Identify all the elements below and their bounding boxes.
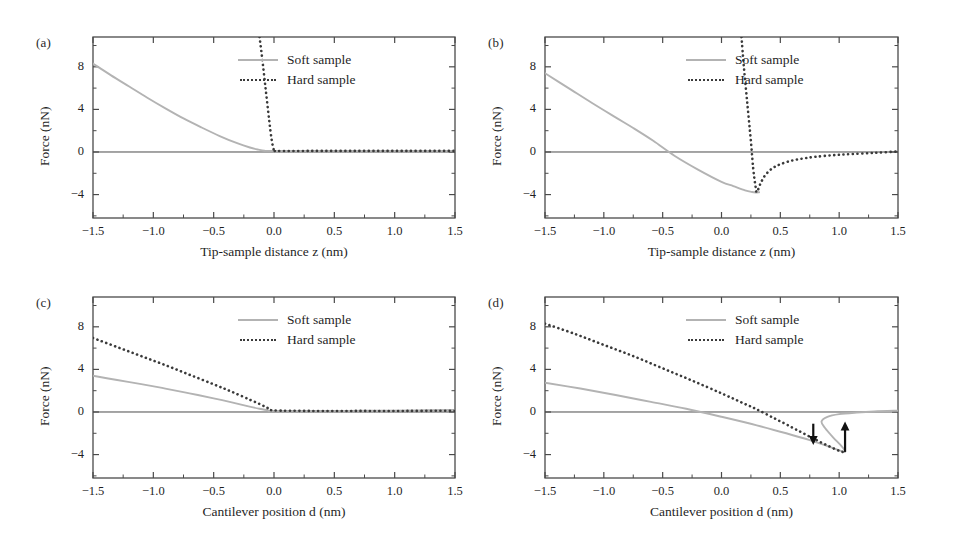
panel-a-xticklabel-3: 0.0 xyxy=(248,224,300,239)
panel-c-yticklabel-0: 8 xyxy=(51,319,84,334)
soft-sample-solid-line xyxy=(238,59,278,61)
panel-a-xticklabel-6: 1.5 xyxy=(429,224,481,239)
panel-d-legend-label-soft: Soft sample xyxy=(735,312,799,328)
panel-d-legend-row-hard: Hard sample xyxy=(686,331,804,348)
soft-sample-line-icon xyxy=(238,55,278,65)
panel-a-plot xyxy=(0,0,955,539)
panel-c-yticklabel-3: −4 xyxy=(51,447,84,462)
panel-c-xticklabel-3: 0.0 xyxy=(248,484,300,499)
panel-d-legend: Soft sampleHard sample xyxy=(686,311,804,351)
panel-b-xticklabel-3: 0.0 xyxy=(696,224,748,239)
panel-c-xticklabel-2: −0.5 xyxy=(188,484,240,499)
soft-sample-solid-line xyxy=(238,319,278,321)
panel-a-legend-row-hard: Hard sample xyxy=(238,71,356,88)
panel-b-yticklabel-1: 4 xyxy=(503,101,536,116)
panel-a-xticklabel-5: 1.0 xyxy=(369,224,421,239)
panel-a-legend: Soft sampleHard sample xyxy=(238,51,356,91)
panel-a-yticklabel-1: 4 xyxy=(51,101,84,116)
panel-d-yticklabel-2: 0 xyxy=(503,404,536,419)
panel-c-yticklabel-1: 4 xyxy=(51,361,84,376)
soft-sample-line-icon xyxy=(686,315,726,325)
panel-b-plot xyxy=(0,0,955,539)
panel-a-xticklabel-4: 0.5 xyxy=(308,224,360,239)
panel-c-legend-row-soft: Soft sample xyxy=(238,311,356,328)
panel-b-legend-row-hard: Hard sample xyxy=(686,71,804,88)
panel-b-legend-row-soft: Soft sample xyxy=(686,51,804,68)
panel-b-xaxis-title: Tip-sample distance z (nm) xyxy=(545,244,898,260)
soft-sample-line-icon xyxy=(686,55,726,65)
panel-a-label: (a) xyxy=(36,35,51,51)
figure-four-panel-force-curves: (a)−1.5−1.0−0.50.00.51.01.5840−4Tip-samp… xyxy=(0,0,955,539)
panel-c-legend-label-hard: Hard sample xyxy=(287,332,356,348)
panel-d-yticklabel-3: −4 xyxy=(503,447,536,462)
panel-c-legend: Soft sampleHard sample xyxy=(238,311,356,351)
panel-c-xticklabel-0: −1.5 xyxy=(67,484,119,499)
hard-sample-dotted-line xyxy=(240,339,276,341)
panel-c-xticklabel-6: 1.5 xyxy=(429,484,481,499)
panel-d-xticklabel-5: 1.0 xyxy=(813,484,865,499)
soft-sample-solid-line xyxy=(686,59,726,61)
panel-c-legend-label-soft: Soft sample xyxy=(287,312,351,328)
panel-d-xticklabel-4: 0.5 xyxy=(754,484,806,499)
panel-a-xaxis-title: Tip-sample distance z (nm) xyxy=(93,244,455,260)
panel-c-yticklabel-2: 0 xyxy=(51,404,84,419)
panel-b-xticklabel-1: −1.0 xyxy=(578,224,630,239)
panel-d-xaxis-title: Cantilever position d (nm) xyxy=(545,504,898,520)
panel-d-xticklabel-0: −1.5 xyxy=(519,484,571,499)
panel-d-arrow-head-1 xyxy=(841,422,850,431)
panel-c-xticklabel-5: 1.0 xyxy=(369,484,421,499)
panel-b-series-0 xyxy=(545,73,759,192)
panel-d-legend-row-soft: Soft sample xyxy=(686,311,804,328)
panel-b-xticklabel-0: −1.5 xyxy=(519,224,571,239)
soft-sample-line-icon xyxy=(238,315,278,325)
panel-a-yaxis-title: Force (nN) xyxy=(37,106,53,166)
panel-a-legend-label-soft: Soft sample xyxy=(287,52,351,68)
hard-sample-dotted-line xyxy=(240,79,276,81)
panel-b-yticklabel-2: 0 xyxy=(503,144,536,159)
panel-d-series-0 xyxy=(545,383,898,452)
panel-a-xticklabel-1: −1.0 xyxy=(127,224,179,239)
panel-d-label: (d) xyxy=(488,295,504,311)
hard-sample-dotted-line xyxy=(688,339,724,341)
panel-a-xticklabel-0: −1.5 xyxy=(67,224,119,239)
panel-d-xticklabel-3: 0.0 xyxy=(696,484,748,499)
panel-d-xticklabel-1: −1.0 xyxy=(578,484,630,499)
panel-b-legend-label-hard: Hard sample xyxy=(735,72,804,88)
panel-d-yticklabel-1: 4 xyxy=(503,361,536,376)
hard-sample-line-icon xyxy=(686,75,726,85)
panel-b-label: (b) xyxy=(488,35,504,51)
panel-c-xticklabel-1: −1.0 xyxy=(127,484,179,499)
panel-a-legend-label-hard: Hard sample xyxy=(287,72,356,88)
panel-b-xticklabel-2: −0.5 xyxy=(637,224,689,239)
panel-a-yticklabel-3: −4 xyxy=(51,187,84,202)
panel-b-xticklabel-5: 1.0 xyxy=(813,224,865,239)
panel-b-xticklabel-6: 1.5 xyxy=(872,224,924,239)
hard-sample-line-icon xyxy=(238,335,278,345)
panel-c-label: (c) xyxy=(36,295,51,311)
panel-d-yaxis-title: Force (nN) xyxy=(489,366,505,426)
panel-d-legend-label-hard: Hard sample xyxy=(735,332,804,348)
hard-sample-dotted-line xyxy=(688,79,724,81)
hard-sample-line-icon xyxy=(238,75,278,85)
panel-d-arrow-head-0 xyxy=(809,436,818,445)
panel-b-yticklabel-3: −4 xyxy=(503,187,536,202)
panel-c-yaxis-title: Force (nN) xyxy=(37,366,53,426)
panel-b-legend: Soft sampleHard sample xyxy=(686,51,804,91)
panel-b-legend-label-soft: Soft sample xyxy=(735,52,799,68)
panel-c-plot xyxy=(0,0,955,539)
panel-b-xticklabel-4: 0.5 xyxy=(754,224,806,239)
panel-d-plot xyxy=(0,0,955,539)
panel-a-yticklabel-2: 0 xyxy=(51,144,84,159)
panel-c-xaxis-title: Cantilever position d (nm) xyxy=(93,504,455,520)
panel-d-yticklabel-0: 8 xyxy=(503,319,536,334)
hard-sample-line-icon xyxy=(686,335,726,345)
panel-c-xticklabel-4: 0.5 xyxy=(308,484,360,499)
panel-d-xticklabel-2: −0.5 xyxy=(637,484,689,499)
panel-d-xticklabel-6: 1.5 xyxy=(872,484,924,499)
panel-c-legend-row-hard: Hard sample xyxy=(238,331,356,348)
soft-sample-solid-line xyxy=(686,319,726,321)
panel-a-xticklabel-2: −0.5 xyxy=(188,224,240,239)
panel-b-yaxis-title: Force (nN) xyxy=(489,106,505,166)
panel-b-yticklabel-0: 8 xyxy=(503,59,536,74)
panel-a-legend-row-soft: Soft sample xyxy=(238,51,356,68)
